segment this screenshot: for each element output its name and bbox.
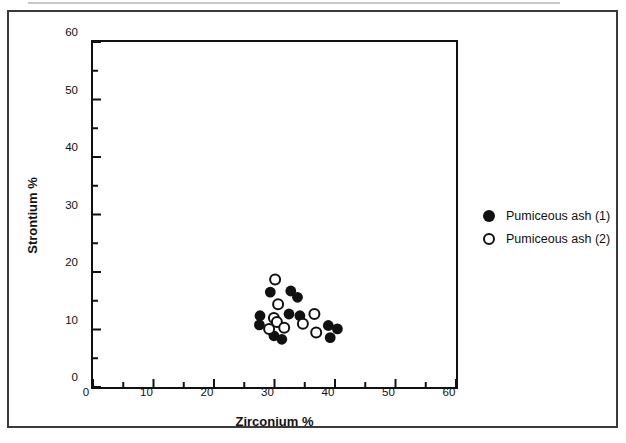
- x-tick-label: 40: [313, 385, 343, 399]
- legend-item-pumiceous-ash-2: Pumiceous ash (2): [483, 232, 610, 246]
- y-tick-label: 60: [44, 25, 78, 39]
- data-point: [270, 275, 280, 285]
- data-point: [332, 324, 343, 335]
- y-tick-label: 20: [44, 255, 78, 269]
- open-circle-icon: [483, 233, 495, 245]
- data-point: [311, 327, 321, 337]
- data-point: [273, 299, 283, 309]
- x-axis-title: Zirconium %: [91, 414, 458, 429]
- data-point: [265, 287, 276, 298]
- scatter-plot-canvas: [93, 42, 456, 387]
- x-tick-label: 0: [71, 385, 101, 399]
- data-point: [292, 292, 303, 303]
- data-point: [309, 309, 319, 319]
- scan-artifact-line: [28, 2, 560, 4]
- x-tick-label: 50: [374, 385, 404, 399]
- x-tick-label: 20: [192, 385, 222, 399]
- figure-frame: 0102030405060 0102030405060 Zirconium % …: [7, 10, 618, 428]
- y-tick-label: 30: [44, 198, 78, 212]
- legend-item-pumiceous-ash-1: Pumiceous ash (1): [483, 209, 610, 223]
- y-tick-label: 40: [44, 140, 78, 154]
- legend-label: Pumiceous ash (2): [506, 232, 610, 246]
- data-point: [255, 310, 266, 321]
- data-point: [325, 332, 336, 343]
- x-tick-label: 10: [132, 385, 162, 399]
- data-point: [284, 309, 295, 320]
- y-axis-title: Strontium %: [25, 151, 40, 281]
- data-point: [264, 324, 274, 334]
- filled-circle-icon: [483, 210, 495, 222]
- plot-area: [91, 40, 458, 389]
- x-tick-label: 60: [434, 385, 464, 399]
- legend-label: Pumiceous ash (1): [506, 209, 610, 223]
- x-tick-label: 30: [253, 385, 283, 399]
- data-point: [279, 323, 289, 333]
- y-tick-label: 10: [44, 313, 78, 327]
- data-point: [298, 319, 308, 329]
- data-point: [276, 334, 287, 345]
- y-tick-label: 0: [44, 370, 78, 384]
- legend: Pumiceous ash (1) Pumiceous ash (2): [483, 209, 610, 246]
- y-tick-label: 50: [44, 83, 78, 97]
